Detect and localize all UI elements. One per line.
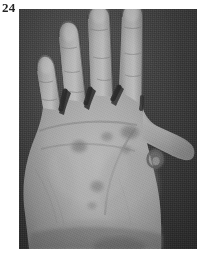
lesion-4 xyxy=(120,145,132,155)
lesion-6 xyxy=(89,180,105,194)
hand-illustration xyxy=(19,9,197,249)
lesion-3 xyxy=(119,125,141,141)
hand-image xyxy=(19,9,197,249)
lesion-2 xyxy=(100,132,114,143)
figure-number: 24 xyxy=(2,1,15,15)
clinical-photograph xyxy=(19,9,197,249)
lesion-1 xyxy=(70,140,89,155)
lesion-5 xyxy=(147,150,164,169)
figure-plate: 24 xyxy=(0,0,209,260)
lesion-7 xyxy=(87,202,98,211)
